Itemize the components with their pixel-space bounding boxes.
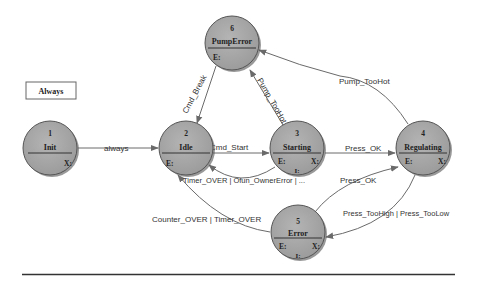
state-error-entry: E: <box>279 242 287 251</box>
state-error-exit: X: <box>312 242 320 251</box>
state-starting[interactable]: 3 Starting E: X: I: <box>270 121 326 177</box>
state-error[interactable]: 5 Error E: X: I: <box>271 205 327 261</box>
state-init[interactable]: 1 Init X: <box>23 121 79 177</box>
state-init-id: 1 <box>48 129 52 138</box>
state-init-exit: X: <box>64 159 72 168</box>
always-legend-box: Always <box>26 82 76 99</box>
edge-label-press-ok: Press_OK <box>345 144 382 153</box>
state-init-name: Init <box>44 143 57 152</box>
edge-label-always: always <box>104 144 128 153</box>
state-idle-name: Idle <box>179 143 193 152</box>
state-starting-id: 3 <box>295 129 299 138</box>
state-regulating-entry: E: <box>405 157 413 166</box>
edge-label-counter-over: Counter_OVER | Timer_OVER <box>152 215 261 224</box>
state-idle[interactable]: 2 Idle E: <box>159 121 215 177</box>
edge-label-cmd-start: Cmd_Start <box>210 143 249 152</box>
edge-label-pump-toohot-regulating: Pump_TooHot <box>339 77 390 86</box>
edge-label-timer-over: Timer_OVER | Ofun_OwnerError | ... <box>183 176 305 185</box>
state-pumperror-name: PumpError <box>212 37 253 46</box>
state-pumperror-id: 6 <box>230 24 234 33</box>
state-starting-internal: I: <box>294 167 299 175</box>
state-regulating-id: 4 <box>421 129 425 138</box>
edge-label-pump-toohot-starting: Pump_TooHot <box>255 77 289 126</box>
state-idle-entry: E: <box>166 159 174 168</box>
state-starting-name: Starting <box>283 143 311 152</box>
state-regulating[interactable]: 4 Regulating E: X: <box>396 121 452 177</box>
state-regulating-name: Regulating <box>404 143 441 152</box>
state-starting-entry: E: <box>278 157 286 166</box>
edge-error-regulating <box>315 167 398 212</box>
state-diagram: Always always Cmd_Start Press_OK Timer_O… <box>0 0 478 292</box>
edge-label-cmd-break: Cmd_Break <box>181 73 209 115</box>
state-error-internal: I: <box>295 252 300 260</box>
edge-label-press-ok-error: Press_OK <box>340 176 377 185</box>
always-legend-label: Always <box>39 87 64 96</box>
edge-label-press-toohigh: Press_TooHigh | Press_TooLow <box>343 209 450 218</box>
state-idle-id: 2 <box>184 129 188 138</box>
state-error-name: Error <box>288 229 308 238</box>
state-error-id: 5 <box>296 217 300 226</box>
state-pumperror-entry: E: <box>213 53 221 62</box>
state-regulating-exit: X: <box>438 157 446 166</box>
state-pumperror[interactable]: 6 PumpError E: <box>205 16 261 72</box>
state-starting-exit: X: <box>311 157 319 166</box>
